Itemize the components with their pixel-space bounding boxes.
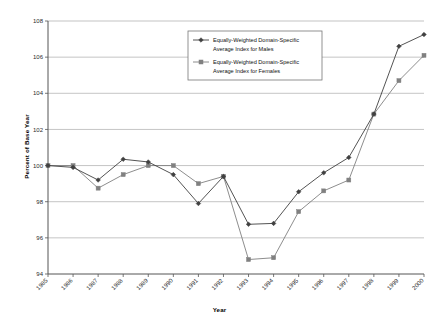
- series-line-females: [46, 53, 426, 261]
- data-point-marker: [397, 44, 402, 49]
- x-tick-label: 1996: [311, 277, 325, 291]
- x-tick-label: 1987: [85, 277, 99, 291]
- legend-label-males-line1: Equally-Weighted Domain-Specific: [213, 37, 299, 43]
- y-tick-label: 98: [36, 199, 43, 205]
- x-tick-label: 1995: [286, 277, 300, 291]
- y-tick-label: 106: [33, 54, 44, 60]
- x-tick-label: 1997: [336, 277, 350, 291]
- data-point-marker: [96, 186, 100, 190]
- y-tick-label: 100: [33, 163, 44, 169]
- x-tick-label: 1992: [210, 277, 224, 291]
- x-tick-label: 1990: [160, 277, 174, 291]
- data-point-marker: [347, 178, 351, 182]
- y-tick-label: 104: [33, 90, 44, 96]
- plot-svg: 949698100102104106108 198519861987198819…: [0, 0, 439, 326]
- legend-marker-females: [199, 60, 203, 64]
- legend: Equally-Weighted Domain-SpecificAverage …: [188, 31, 322, 80]
- data-point-marker: [171, 164, 175, 168]
- x-tick-label: 1991: [185, 277, 199, 291]
- data-point-marker: [322, 189, 326, 193]
- x-tick-label: 1989: [135, 277, 149, 291]
- data-point-marker: [422, 53, 426, 57]
- data-point-marker: [196, 182, 200, 186]
- x-tick-label: 1999: [386, 277, 400, 291]
- legend-label-females-line1: Equally-Weighted Domain-Specific: [213, 59, 299, 65]
- data-point-marker: [272, 256, 276, 260]
- y-tick-label: 94: [36, 271, 43, 277]
- data-point-marker: [397, 79, 401, 83]
- chart-container: Percent of Base Year Year 94969810010210…: [0, 0, 439, 326]
- y-tick-label: 102: [33, 127, 44, 133]
- x-tick-label: 2000: [411, 277, 425, 291]
- data-point-marker: [247, 258, 251, 262]
- y-tick-label: 96: [36, 235, 43, 241]
- data-point-marker: [347, 155, 352, 160]
- legend-label-females-line2: Average Index for Females: [213, 68, 280, 74]
- x-tick-labels: 1985198619871988198919901991199219931994…: [35, 277, 425, 291]
- data-point-marker: [121, 173, 125, 177]
- y-tick-label: 108: [33, 18, 44, 24]
- x-tick-label: 1998: [361, 277, 375, 291]
- y-tick-labels: 949698100102104106108: [33, 18, 44, 277]
- data-point-marker: [246, 222, 251, 227]
- data-point-marker: [422, 32, 427, 37]
- x-tick-label: 1985: [35, 277, 49, 291]
- x-tick-label: 1988: [110, 277, 124, 291]
- x-tick-label: 1993: [236, 277, 250, 291]
- x-tick-label: 1986: [60, 277, 74, 291]
- x-tick-label: 1994: [261, 277, 275, 291]
- data-point-marker: [297, 210, 301, 214]
- legend-label-males-line2: Average Index for Males: [213, 46, 274, 52]
